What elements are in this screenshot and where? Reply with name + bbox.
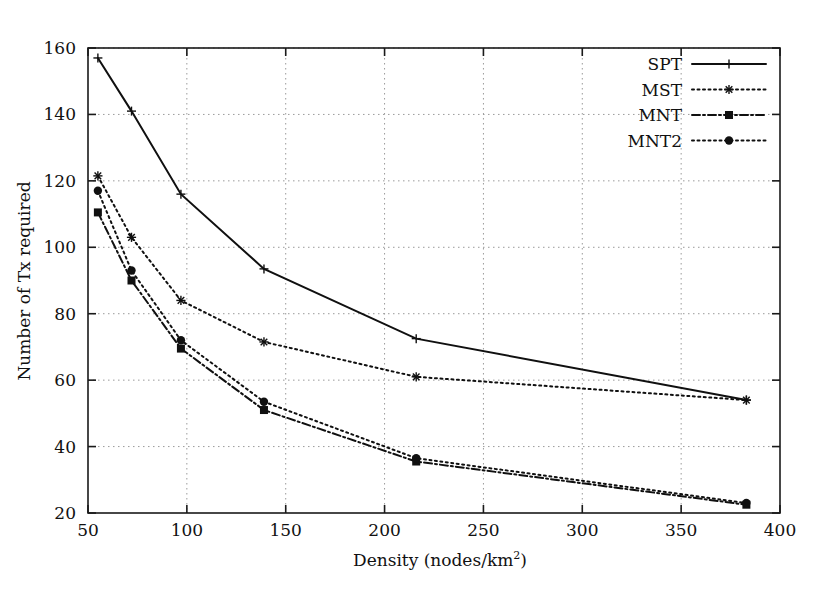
y-axis-title: Number of Tx required: [14, 181, 34, 380]
x-axis-title-tail: ): [520, 550, 527, 570]
y-tick-label: 60: [54, 370, 76, 390]
data-point-marker-asterisk: [412, 372, 421, 381]
data-point-marker-plus: [412, 334, 421, 343]
legend-label-spt: SPT: [648, 54, 683, 74]
y-tick-label: 120: [44, 171, 76, 191]
data-point-marker-filled-square: [260, 406, 268, 414]
data-point-marker-asterisk: [127, 233, 136, 242]
y-tick-label: 40: [54, 437, 76, 457]
series-mnt2: [94, 187, 751, 508]
x-tick-label: 350: [665, 520, 697, 540]
x-tick-label: 50: [77, 520, 99, 540]
series-mnt: [94, 208, 751, 508]
y-tick-label: 100: [44, 237, 76, 257]
data-point-marker-asterisk: [93, 171, 102, 180]
y-tick-label: 160: [44, 38, 76, 58]
series-line: [98, 212, 747, 504]
data-point-marker-asterisk: [176, 296, 185, 305]
data-point-marker-filled-circle: [260, 398, 268, 406]
x-tick-label: 200: [368, 520, 400, 540]
data-point-marker-filled-circle: [412, 454, 420, 462]
x-axis-title-exponent: 2: [513, 549, 520, 562]
x-tick-label: 150: [269, 520, 301, 540]
y-tick-labels: 20406080100120140160: [44, 38, 76, 523]
x-tick-label: 300: [566, 520, 598, 540]
x-axis-title: Density (nodes/km2): [353, 549, 527, 570]
line-chart: 50100150200250300350400 2040608010012014…: [0, 0, 827, 596]
legend-label-mnt2: MNT2: [628, 131, 682, 151]
legend-label-mnt: MNT: [638, 105, 682, 125]
data-point-marker-filled-circle: [725, 136, 733, 144]
x-tick-label: 100: [171, 520, 203, 540]
data-point-marker-filled-square: [177, 345, 185, 353]
legend-label-mst: MST: [642, 80, 683, 100]
data-point-marker-asterisk: [742, 395, 751, 404]
chart-legend: SPTMSTMNTMNT2: [628, 54, 766, 151]
x-axis-title-base: Density (nodes/km: [353, 550, 513, 570]
data-point-marker-filled-circle: [127, 266, 135, 274]
data-point-marker-filled-circle: [94, 187, 102, 195]
series-mst: [93, 171, 751, 404]
data-point-marker-filled-square: [127, 277, 135, 285]
y-tick-label: 20: [54, 503, 76, 523]
data-point-marker-filled-square: [94, 208, 102, 216]
chart-figure: 50100150200250300350400 2040608010012014…: [0, 0, 827, 596]
data-point-marker-asterisk: [259, 337, 268, 346]
series-line: [98, 191, 747, 503]
x-tick-label: 250: [467, 520, 499, 540]
data-point-marker-filled-circle: [177, 336, 185, 344]
x-tick-label: 400: [764, 520, 796, 540]
data-point-marker-filled-square: [725, 111, 733, 119]
series-line: [98, 176, 747, 400]
data-point-marker-asterisk: [724, 85, 733, 94]
x-tick-labels: 50100150200250300350400: [77, 520, 796, 540]
data-point-marker-filled-circle: [742, 499, 750, 507]
y-tick-label: 80: [54, 304, 76, 324]
y-tick-label: 140: [44, 104, 76, 124]
data-point-marker-plus: [725, 60, 734, 69]
